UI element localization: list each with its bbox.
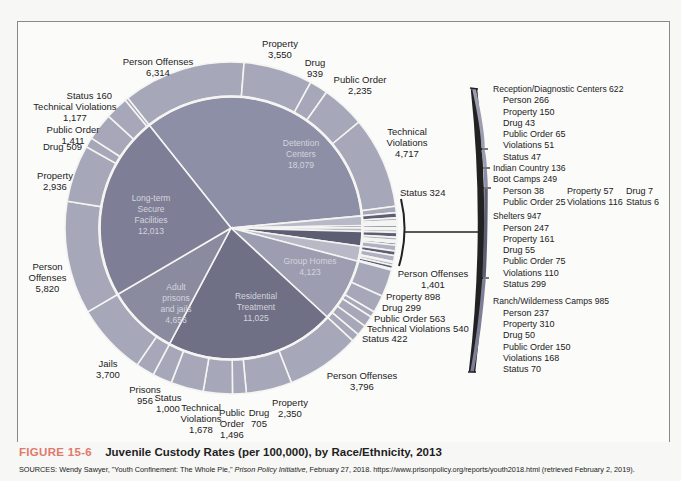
label-line: Secure [116, 204, 186, 215]
bracket-seg-indian [483, 150, 485, 167]
label-line: Facilities [116, 215, 186, 226]
figure-sources: SOURCES: Wendy Sawyer, "Youth Confinemen… [19, 465, 635, 474]
inner-label-adult: Adult prisons and jails 4,656 [146, 282, 206, 326]
legend-item: Property 161 [493, 234, 659, 245]
outer-slice-drug [232, 359, 246, 394]
inner-label-long-term: Long-term Secure Facilities 12,013 [116, 193, 186, 237]
label-rt-property: Property 2,350 [268, 397, 312, 419]
label-name: Drug [300, 57, 330, 68]
legend-item: Status 70 [493, 364, 659, 375]
label-value: 18,079 [256, 160, 346, 171]
label-name: Person Offenses [317, 370, 407, 381]
legend-shelters-title: Shelters 947 [493, 211, 659, 222]
label-line: Centers [256, 149, 346, 160]
legend-item: Property 150 [493, 107, 659, 118]
label-value: 12,013 [116, 226, 186, 237]
legend-indian-title: Indian Country 136 [493, 163, 659, 174]
legend-item: Public Order 75 [493, 256, 659, 267]
label-name: Jails [88, 358, 128, 369]
label-value: 2,936 [25, 181, 85, 192]
label-gh-property: Property 898 [386, 291, 440, 302]
label-line: Technical [377, 126, 437, 137]
label-value: 1,401 [388, 279, 478, 290]
figure-title: Juvenile Custody Rates (per 100,000), by… [105, 446, 442, 458]
label-line: Treatment [216, 302, 296, 313]
legend-item: Drug 43 [493, 118, 659, 129]
label-det-person: Person Offenses 6,314 [108, 56, 208, 78]
legend-item: Property 57 [567, 186, 626, 197]
legend-boot-title: Boot Camps 249 [493, 174, 659, 185]
label-name: Property [250, 38, 310, 49]
legend-item: Status 299 [493, 279, 659, 290]
small-facilities-legend: Reception/Diagnostic Centers 622 Person … [493, 84, 659, 375]
legend-item: Property 310 [493, 319, 659, 330]
label-value: 1,177 [30, 112, 120, 123]
small-bracket [399, 199, 405, 266]
inner-label-residential: Residential Treatment 11,025 [216, 291, 296, 324]
label-line: prisons [146, 293, 206, 304]
label-line: Residential [216, 291, 296, 302]
label-gh-person: Person Offenses 1,401 [388, 268, 478, 290]
label-name: Technical Violations [30, 101, 120, 112]
label-lt-property: Property 2,936 [25, 170, 85, 192]
sources-publication: Prison Policy Initiative [235, 465, 306, 474]
figure-caption: FIGURE 15-6 Juvenile Custody Rates (per … [19, 446, 442, 458]
figure-label: FIGURE 15-6 [19, 446, 92, 458]
legend-boot-row1: Person 38 Property 57 Drug 7 [493, 186, 659, 197]
label-lt-person: Person Offenses 5,820 [20, 261, 75, 294]
legend-item: Person 237 [493, 308, 659, 319]
legend-reception-title: Reception/Diagnostic Centers 622 [493, 84, 659, 95]
inner-label-detention: Detention Centers 18,079 [256, 138, 346, 171]
label-line: Long-term [116, 193, 186, 204]
label-value: 2,350 [268, 408, 312, 419]
legend-item: Person 38 [503, 186, 567, 197]
label-gh-status: Status 422 [362, 333, 407, 344]
label-value: 3,796 [317, 381, 407, 392]
label-line: and jails [146, 304, 206, 315]
label-line: Detention [256, 138, 346, 149]
label-line: Violations [377, 137, 437, 148]
label-value: 4,123 [270, 267, 350, 278]
legend-item: Public Order 150 [493, 342, 659, 353]
label-value: 705 [244, 418, 274, 429]
label-name: Public Order [38, 124, 108, 135]
label-name: Public Order [325, 74, 395, 85]
legend-item: Status 6 [626, 197, 659, 208]
legend-item: Status 47 [493, 152, 659, 163]
label-value: 4,717 [377, 148, 437, 159]
label-name: Person Offenses [108, 56, 208, 67]
label-det-public-order: Public Order 2,235 [325, 74, 395, 96]
label-value: 11,025 [216, 313, 296, 324]
label-rt-person: Person Offenses 3,796 [317, 370, 407, 392]
label-line: Offenses [20, 272, 75, 283]
legend-item: Public Order 65 [493, 129, 659, 140]
label-jails: Jails 3,700 [88, 358, 128, 380]
sources-text-end: , February 27, 2018. https://www.prisonp… [306, 465, 635, 474]
legend-ranch-title: Ranch/Wilderness Camps 985 [493, 296, 659, 307]
label-det-tech: Technical Violations 4,717 [377, 126, 437, 159]
label-line: Group Homes [270, 256, 350, 267]
bracket-seg-shelters [484, 189, 486, 277]
legend-item: Drug 7 [626, 186, 653, 197]
legend-item: Violations 116 [567, 197, 626, 208]
label-lt-status: Status 160 [50, 90, 112, 101]
legend-item: Person 266 [493, 95, 659, 106]
label-value: 2,235 [325, 85, 395, 96]
legend-item: Drug 55 [493, 245, 659, 256]
label-line: Person [20, 261, 75, 272]
label-lt-drug: Drug 509 [35, 141, 90, 152]
legend-item: Public Order 25 [503, 197, 567, 208]
legend-item: Violations 51 [493, 140, 659, 151]
label-name: Property [25, 170, 85, 181]
legend-item: Drug 50 [493, 330, 659, 341]
label-value: 1,496 [213, 429, 251, 440]
legend-boot-row2: Public Order 25 Violations 116 Status 6 [493, 197, 659, 208]
legend-item: Violations 110 [493, 268, 659, 279]
sources-text: SOURCES: Wendy Sawyer, "Youth Confinemen… [19, 465, 235, 474]
bracket-seg-boot [485, 169, 486, 187]
legend-item: Person 247 [493, 223, 659, 234]
label-lt-tech: Technical Violations 1,177 [30, 101, 120, 123]
legend-item: Violations 168 [493, 353, 659, 364]
label-line: Adult [146, 282, 206, 293]
label-value: 3,700 [88, 369, 128, 380]
